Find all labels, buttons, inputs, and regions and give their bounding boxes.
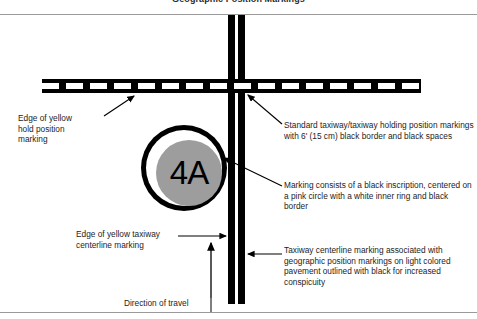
- circle-white-inner-ring: 4A: [146, 130, 222, 206]
- circle-pink-fill: 4A: [156, 140, 222, 206]
- callout-direction-of-travel: Direction of travel: [124, 298, 234, 309]
- frame-rule-bottom: [0, 312, 477, 313]
- leader-standard-holding: [248, 95, 282, 124]
- circle-inscription-label: 4A: [170, 156, 208, 189]
- taxiway-centerline-marking: [228, 15, 245, 304]
- callout-marking-description: Marking consists of a black inscription,…: [284, 180, 472, 212]
- figure-title: Geographic Position Markings: [0, 0, 477, 4]
- callout-centerline-edge: Edge of yellow taxiwaycenterline marking: [76, 229, 216, 250]
- geographic-position-marking-circle: 4A: [141, 125, 227, 211]
- hold-position-dashes: [42, 83, 421, 89]
- callout-taxiway-centerline-marking: Taxiway centerline marking associated wi…: [284, 245, 474, 287]
- callout-hold-position-edge: Edge of yellowhold positionmarking: [18, 113, 128, 145]
- hold-position-marking: [42, 79, 421, 93]
- callout-standard-holding-markings: Standard taxiway/taxiway holding positio…: [284, 120, 474, 141]
- figure-canvas: Geographic Position Markings 4A: [0, 0, 477, 319]
